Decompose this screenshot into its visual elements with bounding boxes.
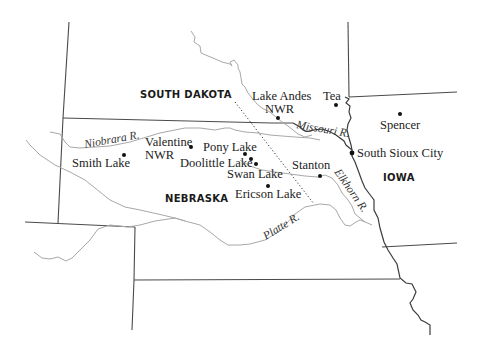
label-valentine: Valentine (145, 135, 193, 149)
river-label-elkhorn: Elkhorn R. (332, 165, 371, 214)
label-smith-lake: Smith Lake (72, 156, 130, 170)
big-sioux-river (345, 97, 352, 150)
label-valentine-nwr: NWR (145, 148, 175, 162)
label-spencer: Spencer (380, 118, 421, 132)
label-ericson-lake: Ericson Lake (235, 187, 302, 201)
border-west (58, 22, 69, 223)
border-sd-ne (63, 118, 293, 123)
border-ne-ks (134, 279, 400, 280)
marker-spencer (398, 112, 402, 116)
river-label-niobrara: Niobrara R. (82, 128, 140, 150)
state-label-nebraska: NEBRASKA (165, 193, 228, 204)
south-platte-river (34, 218, 185, 261)
label-south-sioux-city: South Sioux City (357, 146, 444, 160)
border-ia-mo (382, 243, 457, 247)
marker-south-sioux-city (350, 151, 355, 156)
label-swan-lake: Swan Lake (227, 167, 283, 181)
label-stanton: Stanton (292, 158, 331, 172)
label-tea: Tea (323, 89, 341, 103)
river-label-platte: Platte R. (260, 210, 301, 242)
label-lake-andes-nwr: NWR (265, 102, 295, 116)
marker-lake-andes-nwr (276, 116, 280, 120)
marker-stanton (318, 174, 322, 178)
place-labels: Lake Andes NWR Tea Spencer South Sioux C… (72, 89, 444, 201)
nebraska-region-map: SOUTH DAKOTA NEBRASKA IOWA Niobrara R. M… (0, 0, 483, 341)
state-label-iowa: IOWA (383, 172, 415, 183)
state-label-south-dakota: SOUTH DAKOTA (140, 89, 232, 100)
label-lake-andes: Lake Andes (252, 89, 311, 103)
label-pony-lake: Pony Lake (203, 140, 257, 154)
marker-tea (334, 103, 338, 107)
border-sd-mn (348, 22, 349, 97)
border-ia-mn (349, 92, 457, 97)
border-ne-co-east (132, 227, 135, 330)
marker-swan-lake (254, 162, 258, 166)
